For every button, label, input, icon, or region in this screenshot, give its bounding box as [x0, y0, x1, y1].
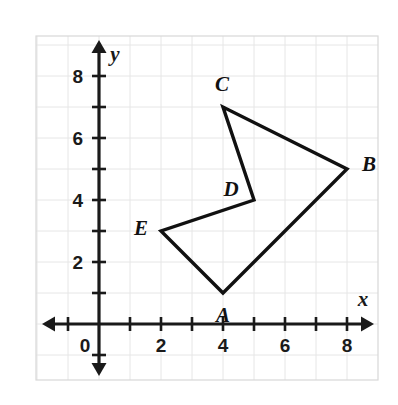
- y-tick-label: 8: [72, 66, 83, 87]
- vertex-label-E: E: [133, 216, 148, 240]
- y-tick-label: 4: [72, 190, 83, 211]
- vertex-label-D: D: [222, 177, 238, 201]
- x-tick-label: 2: [156, 335, 167, 356]
- coordinate-plane-figure: 246824680xyABCDE: [0, 0, 398, 405]
- y-tick-label: 2: [72, 252, 83, 273]
- vertex-label-C: C: [215, 72, 230, 96]
- x-tick-label: 4: [218, 335, 229, 356]
- coordinate-graph: 246824680xyABCDE: [0, 0, 398, 405]
- vertex-label-A: A: [214, 303, 230, 327]
- y-tick-label: 6: [72, 128, 83, 149]
- vertex-label-B: B: [361, 152, 376, 176]
- x-axis-label: x: [357, 287, 369, 311]
- x-tick-label: 8: [342, 335, 353, 356]
- origin-label: 0: [80, 335, 91, 356]
- graph-background: [0, 0, 398, 405]
- x-tick-label: 6: [280, 335, 291, 356]
